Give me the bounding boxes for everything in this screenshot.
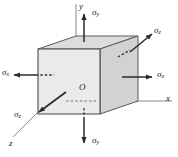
x-axis-label: x [166, 94, 170, 103]
sigma-x-left-label: σx [2, 68, 9, 77]
stress-element-figure: y x z O σy σy σx σx σz σz [0, 0, 178, 157]
cube-front-face [38, 49, 100, 114]
sigma-y-top-subscript: y [96, 11, 99, 17]
sigma-x-right-label: σx [157, 70, 164, 79]
sigma-z-back-subscript: z [158, 29, 160, 35]
sigma-z-front-subscript: z [18, 113, 20, 119]
sigma-z-back-label: σz [154, 26, 161, 35]
cube-right-face [100, 36, 138, 114]
y-axis-label: y [79, 2, 83, 11]
sigma-y-bottom-subscript: y [96, 139, 99, 145]
origin-label: O [79, 83, 86, 92]
sigma-x-right-subscript: x [161, 73, 164, 79]
sigma-z-front-label: σz [14, 110, 21, 119]
figure-canvas [0, 0, 178, 157]
sigma-y-bottom-label: σy [92, 136, 99, 145]
z-axis-label: z [9, 139, 13, 148]
sigma-x-left-subscript: x [6, 71, 9, 77]
sigma-y-top-label: σy [92, 8, 99, 17]
